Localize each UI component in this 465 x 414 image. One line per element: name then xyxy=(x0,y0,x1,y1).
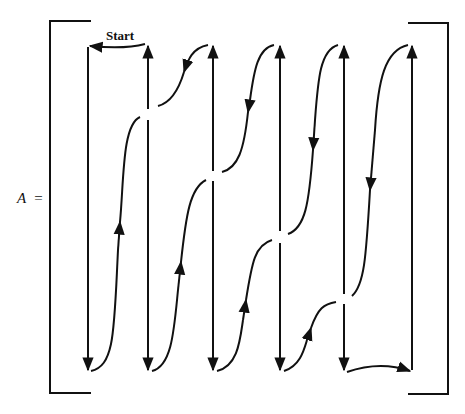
curve-6-arrow xyxy=(313,120,315,150)
curve-3-lower xyxy=(152,290,178,371)
curve-1-arrow xyxy=(118,222,120,250)
curve-2-lower xyxy=(158,72,184,106)
curve-8-arrow xyxy=(370,130,375,190)
curve-3-upper xyxy=(181,180,206,262)
curve-7-lower xyxy=(284,340,307,371)
curve-8-lower xyxy=(352,190,370,296)
diagram-svg: A = Start xyxy=(0,0,465,414)
curve-5-upper xyxy=(246,240,272,300)
curve-8-upper xyxy=(375,45,408,130)
start-label: Start xyxy=(106,28,135,43)
curve-5-lower xyxy=(217,320,243,371)
curve-7-arrow xyxy=(307,328,311,340)
final-arrow xyxy=(347,366,410,372)
curve-4-lower xyxy=(222,112,248,172)
matrix-traversal-diagram: A = Start xyxy=(0,0,465,414)
curve-2-arrow xyxy=(184,45,208,72)
right-bracket xyxy=(408,23,448,394)
curve-4-upper xyxy=(250,45,274,100)
curve-4-arrow xyxy=(248,100,250,112)
matrix-label: A = xyxy=(16,189,43,206)
curve-1-upper xyxy=(120,117,140,222)
curve-7-upper xyxy=(311,302,336,328)
curve-6-lower xyxy=(288,150,313,234)
curve-5-arrow xyxy=(243,300,246,320)
curve-6-upper xyxy=(315,45,338,120)
curve-1-lower xyxy=(91,250,118,371)
start-arrow xyxy=(90,44,145,47)
curve-3-arrow xyxy=(178,262,181,290)
left-bracket xyxy=(50,21,91,393)
